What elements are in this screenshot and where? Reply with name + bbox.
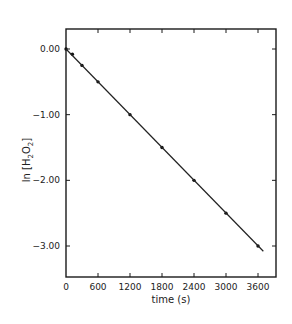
- chart: 060012001800240030003600 0.00−1.00−2.00−…: [0, 0, 292, 324]
- y-tick-label: 0.00: [40, 44, 60, 54]
- plot-frame: [66, 29, 276, 277]
- x-tick-label: 1200: [119, 282, 142, 292]
- x-axis: 060012001800240030003600: [63, 29, 270, 292]
- x-axis-title: time (s): [152, 294, 191, 305]
- fit-line: [66, 49, 263, 251]
- y-axis: 0.00−1.00−2.00−3.00: [32, 44, 276, 251]
- x-tick-label: 600: [89, 282, 106, 292]
- series-layer: [64, 47, 263, 251]
- x-tick-label: 2400: [183, 282, 206, 292]
- y-tick-label: −3.00: [32, 241, 60, 251]
- x-tick-label: 1800: [151, 282, 174, 292]
- x-tick-label: 3000: [215, 282, 238, 292]
- y-tick-label: −2.00: [32, 175, 60, 185]
- x-tick-label: 3600: [247, 282, 270, 292]
- x-tick-label: 0: [63, 282, 69, 292]
- plot-border: [66, 29, 276, 277]
- y-tick-label: −1.00: [32, 110, 60, 120]
